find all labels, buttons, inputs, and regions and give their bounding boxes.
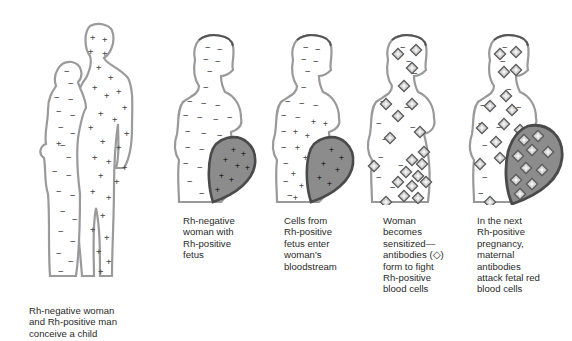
man-silhouette xyxy=(73,24,132,276)
caption-panel-3: Cells from Rh-positive fetus enter woman… xyxy=(284,215,337,272)
svg-text:+: + xyxy=(98,108,104,118)
svg-text:+: + xyxy=(108,72,114,82)
svg-text:+: + xyxy=(122,162,128,172)
svg-text:−: − xyxy=(299,98,305,108)
svg-text:+: + xyxy=(223,155,228,164)
svg-text:−: − xyxy=(376,118,382,128)
svg-text:−: − xyxy=(72,214,78,224)
sensitized-woman-figure: −−− −−− −−− −−− xyxy=(362,30,472,205)
svg-text:−: − xyxy=(217,44,223,54)
svg-text:−: − xyxy=(52,166,58,176)
svg-text:+: + xyxy=(104,90,110,100)
svg-text:−: − xyxy=(70,128,76,138)
svg-text:−: − xyxy=(478,188,484,198)
svg-text:−: − xyxy=(197,162,203,172)
svg-text:+: + xyxy=(293,127,298,136)
svg-text:−: − xyxy=(70,190,76,200)
svg-text:−: − xyxy=(201,128,207,138)
pregnant-woman-figure-1: −−− −−− −−− −−− −−− −−− −−− −− +++ +++ +… xyxy=(165,30,275,205)
svg-text:+: + xyxy=(229,175,234,184)
svg-text:+: + xyxy=(100,136,106,146)
caption-panel-4: Woman becomes sensitized— antibodies (◇)… xyxy=(383,215,444,295)
svg-text:−: − xyxy=(185,142,191,152)
svg-text:−: − xyxy=(315,44,321,54)
svg-text:−: − xyxy=(215,100,221,110)
svg-text:−: − xyxy=(68,78,74,88)
svg-text:−: − xyxy=(54,92,60,102)
svg-text:−: − xyxy=(281,142,287,152)
svg-text:+: + xyxy=(98,266,104,276)
svg-text:−: − xyxy=(66,170,72,180)
svg-text:−: − xyxy=(227,112,233,122)
svg-text:−: − xyxy=(68,256,74,266)
svg-text:+: + xyxy=(116,142,122,152)
svg-text:+: + xyxy=(100,210,106,220)
svg-text:+: + xyxy=(321,159,326,168)
svg-text:−: − xyxy=(197,112,203,122)
svg-text:−: − xyxy=(283,158,289,168)
svg-text:+: + xyxy=(92,82,98,92)
svg-text:−: − xyxy=(187,176,193,186)
svg-text:−: − xyxy=(58,266,64,276)
svg-text:+: + xyxy=(339,153,344,162)
svg-text:−: − xyxy=(285,96,291,106)
svg-text:+: + xyxy=(90,224,96,234)
svg-text:−: − xyxy=(187,96,193,106)
svg-text:+: + xyxy=(88,122,94,132)
svg-text:−: − xyxy=(60,206,66,216)
svg-text:−: − xyxy=(199,188,205,198)
svg-text:−: − xyxy=(295,112,301,122)
svg-text:+: + xyxy=(114,176,120,186)
svg-text:−: − xyxy=(185,126,191,136)
svg-text:+: + xyxy=(106,256,112,266)
svg-text:−: − xyxy=(281,126,287,136)
svg-text:+: + xyxy=(245,163,250,172)
svg-text:−: − xyxy=(213,114,219,124)
svg-text:+: + xyxy=(90,186,96,196)
svg-text:−: − xyxy=(203,82,209,92)
svg-text:+: + xyxy=(329,145,334,154)
svg-text:+: + xyxy=(299,181,304,190)
second-pregnancy-figure: −−− −−− −−− −− xyxy=(460,30,572,205)
svg-text:−: − xyxy=(283,176,289,186)
svg-text:+: + xyxy=(124,128,130,138)
svg-text:+: + xyxy=(317,173,322,182)
svg-text:−: − xyxy=(303,42,309,52)
svg-text:−: − xyxy=(376,172,382,182)
svg-text:−: − xyxy=(313,56,319,66)
svg-text:−: − xyxy=(201,98,207,108)
svg-text:−: − xyxy=(207,66,213,76)
svg-text:+: + xyxy=(96,246,102,256)
caption-panel-5: In the next Rh-positive pregnancy, mater… xyxy=(477,215,540,295)
svg-text:+: + xyxy=(305,131,310,140)
svg-text:−: − xyxy=(70,110,76,120)
caption-panel-1: Rh-negative woman and Rh-positive man co… xyxy=(29,305,117,339)
svg-text:+: + xyxy=(102,48,108,58)
svg-text:+: + xyxy=(335,165,340,174)
svg-text:−: − xyxy=(482,140,488,150)
svg-text:−: − xyxy=(68,94,74,104)
svg-text:−: − xyxy=(301,54,307,64)
svg-text:−: − xyxy=(281,110,287,120)
svg-text:−: − xyxy=(203,54,209,64)
svg-text:+: + xyxy=(231,145,236,154)
svg-text:+: + xyxy=(90,32,96,42)
svg-text:−: − xyxy=(60,140,66,150)
caption-panel-2: Rh-negative woman with Rh-positive fetus xyxy=(183,215,235,261)
svg-text:−: − xyxy=(66,152,72,162)
svg-text:+: + xyxy=(235,161,240,170)
svg-text:+: + xyxy=(106,156,112,166)
svg-text:+: + xyxy=(291,169,296,178)
svg-text:+: + xyxy=(323,119,328,128)
svg-text:−: − xyxy=(56,106,62,116)
svg-text:−: − xyxy=(64,66,70,76)
svg-text:−: − xyxy=(199,144,205,154)
svg-text:+: + xyxy=(116,86,122,96)
couple-figure: ++ ++ ++ ++ ++ ++ ++ ++ ++ ++ ++ ++ ++ +… xyxy=(20,18,140,280)
svg-text:−: − xyxy=(301,82,307,92)
svg-text:−: − xyxy=(313,100,319,110)
svg-text:+: + xyxy=(215,185,220,194)
svg-text:−: − xyxy=(56,186,62,196)
svg-text:+: + xyxy=(241,149,246,158)
svg-text:−: − xyxy=(205,42,211,52)
